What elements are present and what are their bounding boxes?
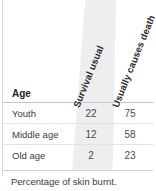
cell-middle-age-survival-usual: 12 bbox=[72, 129, 110, 140]
cell-old-age-usually-causes-death: 23 bbox=[110, 150, 150, 161]
table-row: Old age 2 23 bbox=[3, 145, 153, 165]
cell-old-age-survival-usual: 2 bbox=[72, 150, 110, 161]
row-label-old-age: Old age bbox=[3, 150, 72, 161]
cell-middle-age-usually-causes-death: 58 bbox=[110, 129, 150, 140]
row-label-middle-age: Middle age bbox=[3, 129, 72, 140]
table-row: Middle age 12 58 bbox=[3, 124, 153, 145]
table-bottom-rule bbox=[3, 170, 153, 171]
figure-table-panel: Survival usual Usually causes death Age … bbox=[0, 0, 156, 191]
row-header-label-age: Age bbox=[3, 88, 72, 99]
figure-caption: Percentage of skin burnt. bbox=[11, 176, 117, 187]
row-label-youth: Youth bbox=[3, 108, 72, 119]
cell-youth-survival-usual: 22 bbox=[72, 108, 110, 119]
cell-youth-usually-causes-death: 75 bbox=[110, 108, 150, 119]
